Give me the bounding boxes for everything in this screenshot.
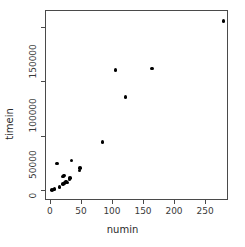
data-point: [58, 185, 62, 189]
data-point: [222, 19, 226, 23]
y-tick: [41, 27, 45, 28]
data-point: [70, 159, 74, 163]
y-tick-label: 150000: [29, 44, 38, 78]
scatter-plot-figure: 050100150200250 050000100000150000 numin…: [0, 0, 245, 247]
data-point: [61, 182, 65, 186]
y-tick-label: 100000: [29, 99, 38, 133]
x-tick-label: 0: [47, 207, 53, 216]
data-point: [101, 140, 105, 144]
data-point: [114, 68, 118, 72]
x-tick: [205, 200, 206, 204]
x-axis-title: numin: [0, 224, 245, 235]
x-tick-label: 100: [103, 207, 120, 216]
data-point: [61, 175, 65, 179]
y-tick-label: 50000: [29, 150, 38, 179]
x-tick-label: 200: [165, 207, 182, 216]
x-tick: [112, 200, 113, 204]
data-point: [150, 67, 154, 71]
y-axis-title: timein: [4, 108, 15, 140]
y-tick: [41, 136, 45, 137]
data-point: [78, 169, 82, 173]
data-point: [55, 162, 59, 166]
y-axis-title-wrapper: timein: [4, 0, 18, 247]
y-tick: [41, 81, 45, 82]
x-tick: [174, 200, 175, 204]
plot-area: [45, 10, 228, 200]
y-tick-label: 0: [29, 193, 38, 199]
x-tick: [143, 200, 144, 204]
y-tick: [41, 190, 45, 191]
x-tick: [50, 200, 51, 204]
data-point: [124, 95, 128, 99]
x-tick: [81, 200, 82, 204]
data-point: [50, 188, 54, 192]
x-tick-label: 250: [196, 207, 213, 216]
x-tick-label: 150: [134, 207, 151, 216]
x-tick-label: 50: [75, 207, 86, 216]
